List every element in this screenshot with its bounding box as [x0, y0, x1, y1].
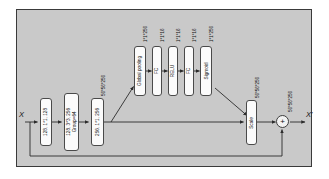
scale-block-text: Scale [247, 101, 256, 144]
se-block-fc-1-text: FC [153, 47, 161, 95]
se-block-global-pooling[interactable]: Global pooling [134, 46, 146, 96]
sum-symbol: + [277, 116, 288, 127]
scale-output-caption: 56*56*256 [255, 77, 260, 98]
se-block-global-pooling-text: Global pooling [135, 47, 145, 95]
conv-block-2[interactable]: 128, 3*3, 256 Group=64 [64, 93, 79, 151]
output-label: X' [306, 110, 312, 119]
sum-output-caption: 56*56*256 [288, 91, 293, 112]
conv-block-3-text: 256, 1*1, 256 [92, 99, 103, 145]
sum-node[interactable]: + [276, 115, 289, 128]
se-caption-sigmoid: 1*1*256 [209, 26, 214, 42]
se-block-sigmoid[interactable]: Sigmoid [200, 46, 212, 96]
conv-block-2-text: 128, 3*3, 256 Group=64 [65, 94, 78, 150]
input-label: X [19, 110, 24, 119]
scale-block[interactable]: Scale [246, 100, 257, 145]
trunk-output-caption: 56*56*256 [101, 75, 106, 96]
se-block-sigmoid-text: Sigmoid [201, 47, 211, 95]
diagram-root: X X' 128, 1*1, 128 128, 3*3, 256 Group=6… [0, 0, 329, 179]
se-block-relu[interactable]: RELU [168, 46, 178, 96]
se-block-relu-text: RELU [169, 47, 177, 95]
se-caption-fc-2: 1*1*16 [192, 28, 197, 42]
se-caption-fc-1: 1*1*16 [160, 28, 165, 42]
conv-block-3[interactable]: 256, 1*1, 256 [91, 98, 104, 146]
conv-block-1[interactable]: 128, 1*1, 128 [40, 98, 52, 146]
se-block-fc-1[interactable]: FC [152, 46, 162, 96]
conv-block-1-text: 128, 1*1, 128 [41, 99, 51, 145]
se-caption-global-pooling: 1*1*256 [143, 26, 148, 42]
se-block-fc-2-text: FC [185, 47, 193, 95]
se-caption-relu: 1*1*16 [176, 28, 181, 42]
se-block-fc-2[interactable]: FC [184, 46, 194, 96]
